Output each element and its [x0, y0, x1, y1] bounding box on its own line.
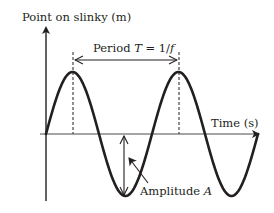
amplitude-label-prefix: Amplitude — [139, 184, 204, 198]
period-equals: = 1/ — [142, 41, 170, 55]
amplitude-symbol: A — [203, 184, 212, 198]
period-label-prefix: Period — [93, 41, 134, 55]
x-axis-label: Time (s) — [211, 116, 259, 130]
y-axis-label: Point on slinky (m) — [22, 10, 131, 24]
period-label: Period T = 1/f — [93, 41, 176, 55]
wave-graph: Point on slinky (m) Time (s) Period T = … — [0, 0, 274, 213]
sine-wave-diagram: Point on slinky (m) Time (s) Period T = … — [0, 0, 274, 213]
frequency-symbol: f — [169, 41, 176, 55]
amplitude-label: Amplitude A — [139, 184, 212, 198]
